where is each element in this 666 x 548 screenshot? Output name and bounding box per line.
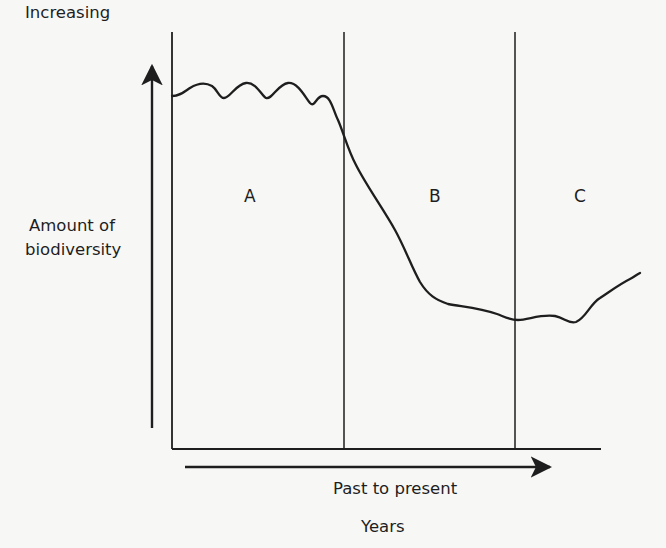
x-axis-label: Years: [361, 517, 405, 536]
y-top-label: Increasing: [25, 3, 110, 22]
region-label-a: A: [244, 186, 256, 206]
biodiversity-diagram: [0, 0, 666, 548]
biodiversity-curve: [172, 83, 640, 322]
y-axis-label-line1: Amount of: [29, 216, 115, 235]
y-axis-label-line2: biodiversity: [25, 240, 121, 259]
region-label-b: B: [429, 186, 441, 206]
x-arrow-label: Past to present: [333, 479, 457, 498]
region-label-c: C: [574, 186, 586, 206]
